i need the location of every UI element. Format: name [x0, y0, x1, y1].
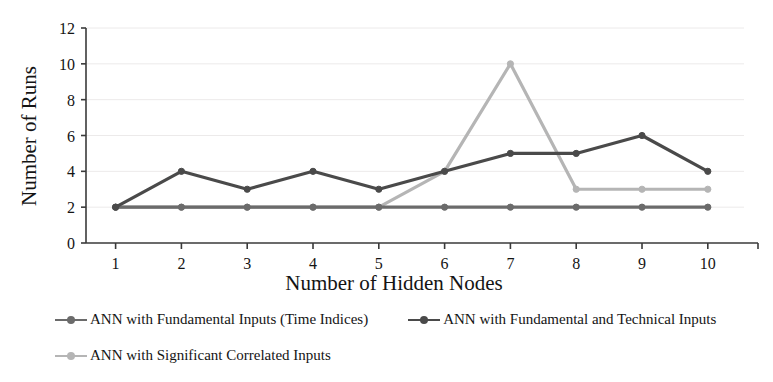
legend-marker-icon [55, 350, 87, 362]
y-tick-label: 4 [67, 163, 75, 180]
data-point-marker [376, 186, 382, 192]
legend-row-secondary: ANN with Significant Correlated Inputs [55, 348, 357, 363]
data-point-marker [705, 204, 711, 210]
y-tick-label: 0 [67, 235, 75, 252]
data-point-marker [178, 204, 184, 210]
x-tick-labels: 12345678910 [112, 255, 716, 272]
x-tick-label: 4 [309, 255, 317, 272]
data-point-marker [573, 150, 579, 156]
x-tick-label: 3 [243, 255, 251, 272]
data-point-marker [310, 204, 316, 210]
series-1 [113, 204, 711, 210]
data-point-marker [573, 186, 579, 192]
data-point-marker [507, 61, 513, 67]
data-point-marker [507, 150, 513, 156]
legend-item-fundamental-time-indices[interactable]: ANN with Fundamental Inputs (Time Indice… [55, 312, 368, 327]
data-point-marker [178, 168, 184, 174]
y-tick-label: 6 [67, 128, 75, 145]
data-point-marker [639, 132, 645, 138]
data-point-marker [113, 204, 119, 210]
y-tick-label: 10 [59, 56, 75, 73]
data-point-marker [244, 204, 250, 210]
x-tick-label: 1 [112, 255, 120, 272]
legend-item-fundamental-technical[interactable]: ANN with Fundamental and Technical Input… [408, 312, 716, 327]
data-point-marker [442, 204, 448, 210]
legend-label: ANN with Fundamental Inputs (Time Indice… [90, 312, 368, 327]
x-tick-label: 9 [638, 255, 646, 272]
data-point-marker [639, 204, 645, 210]
x-tick-label: 2 [177, 255, 185, 272]
data-point-marker [705, 186, 711, 192]
y-tick-labels: 024681012 [59, 20, 75, 252]
data-point-marker [244, 186, 250, 192]
y-tick-label: 12 [59, 20, 75, 37]
x-axis-title: Number of Hidden Nodes [285, 271, 503, 295]
x-tick-label: 5 [375, 255, 383, 272]
data-point-marker [376, 204, 382, 210]
legend-item-significant-correlated[interactable]: ANN with Significant Correlated Inputs [55, 348, 331, 363]
data-point-marker [507, 204, 513, 210]
chart-figure: 024681012 12345678910 Number of Hidden N… [0, 0, 773, 382]
legend-marker-icon [408, 314, 440, 326]
legend-marker-icon [55, 314, 87, 326]
data-point-marker [310, 168, 316, 174]
x-axis [86, 243, 758, 249]
x-tick-label: 6 [441, 255, 449, 272]
x-tick-label: 10 [700, 255, 716, 272]
legend-label: ANN with Fundamental and Technical Input… [443, 312, 716, 327]
data-point-marker [639, 186, 645, 192]
legend-label: ANN with Significant Correlated Inputs [90, 348, 331, 363]
data-point-marker [442, 168, 448, 174]
x-tick-label: 8 [572, 255, 580, 272]
y-tick-label: 8 [67, 92, 75, 109]
y-axis-title: Number of Runs [17, 66, 41, 206]
y-tick-label: 2 [67, 199, 75, 216]
data-point-marker [705, 168, 711, 174]
x-tick-label: 7 [506, 255, 514, 272]
data-point-marker [573, 204, 579, 210]
legend-row-primary: ANN with Fundamental Inputs (Time Indice… [55, 312, 742, 327]
y-axis [81, 28, 86, 243]
